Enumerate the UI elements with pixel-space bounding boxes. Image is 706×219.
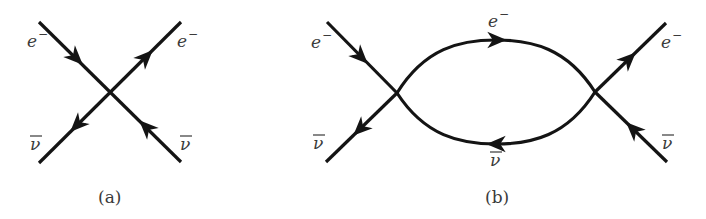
label-antineutrino-in: ν	[180, 134, 190, 154]
label-electron-in-sup: −	[38, 27, 48, 41]
label-loop-electron-sup: −	[499, 7, 509, 21]
label-electron-in: e	[27, 31, 37, 51]
label-antineutrino-in: ν	[662, 133, 672, 153]
caption-a: (a)	[98, 187, 121, 207]
label-electron-in: e	[311, 32, 321, 52]
label-loop-antineutrino: ν	[490, 150, 500, 170]
label-antineutrino-out: ν	[313, 133, 323, 153]
label-electron-out: e	[661, 32, 671, 52]
label-electron-out-sup: −	[188, 27, 198, 41]
label-electron-out-sup: −	[672, 28, 682, 42]
feynman-diagrams: e − e − ν ν (a) e − e − e − ν	[0, 0, 706, 219]
caption-b: (b)	[485, 187, 509, 207]
loop-electron-propagator	[397, 40, 595, 93]
label-antineutrino-out: ν	[30, 134, 40, 154]
diagram-a: e − e − ν ν (a)	[27, 22, 198, 207]
loop-antineutrino-propagator	[397, 92, 595, 144]
label-electron-out: e	[177, 31, 187, 51]
label-electron-in-sup: −	[322, 28, 332, 42]
diagram-b: e − e − e − ν ν ν (b)	[311, 7, 682, 207]
label-loop-electron: e	[488, 11, 498, 31]
